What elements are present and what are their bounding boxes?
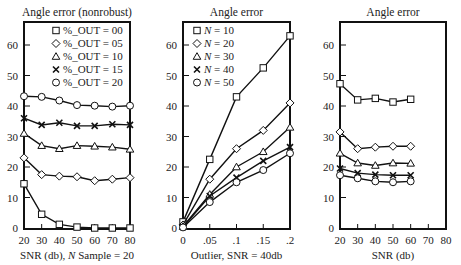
square-marker: [109, 225, 115, 231]
legend-label: N = 40: [203, 63, 235, 75]
y-tick-label: 10: [166, 192, 178, 204]
x-tick-label: 40: [54, 234, 66, 246]
circle-marker: [91, 102, 98, 109]
x-tick-label: 70: [107, 234, 119, 246]
legend-label: %_OUT = 05: [63, 37, 123, 49]
x-tick-label: 30: [36, 234, 48, 246]
circle-marker: [127, 102, 134, 109]
x-tick-label: 60: [405, 234, 417, 246]
square-marker: [390, 99, 396, 105]
legend-label: %_OUT = 15: [63, 63, 123, 75]
legend-circle-marker: [53, 79, 60, 86]
legend-square-marker: [53, 27, 59, 33]
square-marker: [56, 221, 62, 227]
legend-triangle-marker: [193, 53, 201, 60]
circle-marker: [337, 172, 344, 179]
square-marker: [127, 225, 133, 231]
legend-triangle-marker: [52, 53, 60, 60]
circle-marker: [372, 178, 379, 185]
chart-panel-2: Angle error01020304050600.05.1.15.2Outli…: [166, 6, 294, 261]
y-tick-label: 30: [7, 131, 19, 143]
circle-marker: [109, 103, 116, 110]
y-tick-label: 40: [323, 100, 335, 112]
legend-label: N = 20: [203, 37, 235, 49]
y-tick-label: 60: [166, 39, 178, 51]
legend-label: N = 50: [203, 76, 235, 88]
chart-panel-3: Angle error010203040506020304050607080SN…: [323, 6, 452, 262]
legend-label: N = 10: [203, 24, 235, 36]
square-marker: [407, 96, 413, 102]
circle-marker: [38, 93, 45, 100]
square-marker: [354, 97, 360, 103]
x-tick-label: .05: [203, 234, 217, 246]
diamond-marker: [108, 175, 116, 183]
series-circle: [21, 93, 134, 110]
y-tick-label: 60: [323, 39, 335, 51]
series-diamond: [20, 154, 134, 185]
triangle-marker: [233, 163, 241, 170]
x-marker: [260, 158, 266, 164]
legend-diamond-marker: [52, 40, 60, 48]
circle-marker: [74, 102, 81, 109]
x-axis-label: Outlier, SNR = 40db: [191, 249, 283, 261]
triangle-marker: [336, 149, 344, 156]
y-tick-label: 40: [166, 100, 178, 112]
diamond-marker: [371, 143, 379, 151]
x-tick-label: .2: [286, 234, 294, 246]
square-marker: [74, 224, 80, 230]
series-square: [21, 181, 133, 232]
x-tick-label: 80: [441, 234, 453, 246]
x-tick-label: 40: [370, 234, 382, 246]
legend-square-marker: [194, 27, 200, 33]
diamond-marker: [389, 142, 397, 150]
series-line: [24, 184, 130, 228]
x-tick-label: .15: [256, 234, 270, 246]
series-square: [337, 81, 414, 106]
triangle-marker: [20, 130, 28, 137]
circle-marker: [260, 167, 267, 174]
series-triangle: [336, 149, 414, 168]
series-x: [21, 115, 133, 129]
legend-diamond-marker: [193, 40, 201, 48]
legend-label: %_OUT = 10: [63, 50, 123, 62]
y-tick-label: 50: [323, 70, 335, 82]
diamond-marker: [55, 172, 63, 180]
chart-title: Angle error: [210, 6, 263, 19]
x-tick-label: 50: [72, 234, 84, 246]
x-tick-label: .1: [232, 234, 240, 246]
y-tick-label: 50: [166, 70, 178, 82]
x-axis-label: SNR (db): [372, 249, 415, 262]
circle-marker: [56, 97, 63, 104]
x-tick-label: 30: [352, 234, 364, 246]
circle-marker: [21, 93, 28, 100]
x-tick-label: 60: [89, 234, 101, 246]
x-tick-label: 0: [180, 234, 186, 246]
square-marker: [91, 225, 97, 231]
y-tick-label: 10: [323, 192, 335, 204]
y-tick-label: 10: [7, 192, 19, 204]
triangle-marker: [286, 124, 294, 131]
chart-panel-1: Angle error (nonrobust)01020304050602030…: [7, 6, 136, 262]
legend-label: %_OUT = 00: [63, 24, 123, 36]
y-tick-label: 20: [323, 161, 335, 173]
series-line: [183, 36, 290, 222]
series-square: [180, 33, 293, 225]
legend-x-marker: [53, 67, 59, 73]
circle-marker: [287, 150, 294, 157]
series-triangle: [179, 124, 294, 230]
square-marker: [260, 65, 266, 71]
circle-marker: [233, 179, 240, 186]
chart-title: Angle error (nonrobust): [22, 6, 132, 19]
plot-frame: [340, 22, 446, 229]
x-tick-label: 50: [388, 234, 400, 246]
legend-x-marker: [194, 67, 200, 73]
y-tick-label: 20: [7, 161, 19, 173]
x-tick-label: 20: [335, 234, 347, 246]
triangle-marker: [38, 142, 46, 149]
y-tick-label: 0: [329, 222, 335, 234]
square-marker: [38, 211, 44, 217]
legend: %_OUT = 00%_OUT = 05%_OUT = 10%_OUT = 15…: [52, 24, 123, 88]
series-line: [183, 147, 290, 227]
square-marker: [287, 33, 293, 39]
diamond-marker: [91, 177, 99, 185]
